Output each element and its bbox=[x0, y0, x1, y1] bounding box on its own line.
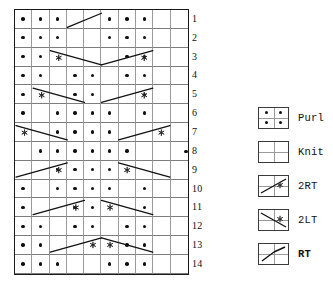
chart-cell bbox=[119, 198, 136, 217]
chart-cell bbox=[136, 180, 153, 199]
purl-dot bbox=[21, 187, 24, 190]
purl-dot bbox=[56, 36, 59, 39]
purl-dot bbox=[21, 17, 24, 20]
purl-dot bbox=[143, 187, 146, 190]
chart-cell bbox=[84, 85, 101, 104]
chart-cell bbox=[15, 85, 32, 104]
chart-cell bbox=[153, 236, 170, 255]
chart-cell bbox=[67, 67, 84, 86]
chart-cell bbox=[171, 161, 188, 180]
chart-cell bbox=[136, 29, 153, 48]
purl-dot bbox=[143, 206, 146, 209]
chart-cell bbox=[15, 123, 32, 142]
chart-cell bbox=[84, 180, 101, 199]
row-number: 13 bbox=[192, 235, 218, 254]
chart-cell bbox=[101, 67, 118, 86]
purl-dot bbox=[143, 17, 146, 20]
purl-dot bbox=[73, 225, 76, 228]
purl-dot bbox=[143, 243, 146, 246]
chart-cell bbox=[50, 67, 67, 86]
row-number: 4 bbox=[192, 66, 218, 85]
chart-cell bbox=[50, 29, 67, 48]
chart-cell bbox=[84, 198, 101, 217]
purl-dot bbox=[56, 168, 59, 171]
chart-cell bbox=[153, 104, 170, 123]
purl-dot bbox=[91, 168, 94, 171]
row-number: 10 bbox=[192, 179, 218, 198]
2lt-glyph-icon bbox=[259, 210, 288, 230]
purl-dot bbox=[125, 243, 128, 246]
purl-dot bbox=[91, 206, 94, 209]
chart-cell bbox=[136, 142, 153, 161]
chart-cell bbox=[50, 198, 67, 217]
legend-swatch-rt-icon bbox=[258, 243, 289, 265]
chart-row bbox=[15, 217, 188, 236]
chart-cell bbox=[32, 198, 49, 217]
chart-cell bbox=[67, 198, 84, 217]
row-number: 3 bbox=[192, 47, 218, 66]
chart-row bbox=[15, 29, 188, 48]
purl-dot bbox=[108, 187, 111, 190]
purl-dot bbox=[39, 17, 42, 20]
chart-cell bbox=[67, 236, 84, 255]
chart-cell bbox=[67, 255, 84, 274]
purl-dot bbox=[73, 93, 76, 96]
purl-dot bbox=[265, 111, 268, 114]
chart-cell bbox=[136, 123, 153, 142]
chart-cell bbox=[32, 85, 49, 104]
legend-swatch-purl-icon bbox=[258, 107, 289, 129]
chart-cell bbox=[32, 161, 49, 180]
chart-cell bbox=[32, 10, 49, 29]
purl-dot bbox=[143, 74, 146, 77]
swatch-horizontal-divider bbox=[259, 152, 288, 153]
chart-cell bbox=[136, 255, 153, 274]
chart-cell bbox=[50, 161, 67, 180]
chart-cell bbox=[153, 217, 170, 236]
chart-cell bbox=[171, 10, 188, 29]
purl-dot bbox=[108, 130, 111, 133]
chart-cell bbox=[67, 161, 84, 180]
chart-cell bbox=[84, 142, 101, 161]
chart-row bbox=[15, 123, 188, 142]
chart-cell bbox=[171, 123, 188, 142]
chart-row bbox=[15, 180, 188, 199]
chart-cell bbox=[171, 48, 188, 67]
legend-label: RT bbox=[298, 248, 311, 260]
chart-row bbox=[15, 142, 188, 161]
chart-cell bbox=[50, 123, 67, 142]
row-number: 7 bbox=[192, 122, 218, 141]
purl-dot bbox=[125, 149, 128, 152]
chart-cell bbox=[136, 85, 153, 104]
purl-dot bbox=[125, 262, 128, 265]
legend-swatch-2lt-icon bbox=[258, 209, 289, 231]
purl-dot bbox=[56, 187, 59, 190]
chart-cell bbox=[84, 161, 101, 180]
chart-cell bbox=[67, 217, 84, 236]
purl-dot bbox=[279, 121, 282, 124]
chart-row bbox=[15, 67, 188, 86]
chart-cell bbox=[15, 161, 32, 180]
chart-cell bbox=[32, 104, 49, 123]
chart-cell bbox=[153, 123, 170, 142]
rt-glyph-icon bbox=[259, 244, 288, 264]
2rt-glyph-icon bbox=[259, 176, 288, 196]
purl-dot bbox=[265, 121, 268, 124]
purl-dot bbox=[91, 93, 94, 96]
chart-cell bbox=[119, 236, 136, 255]
purl-dot bbox=[279, 111, 282, 114]
chart-cell bbox=[50, 142, 67, 161]
chart-row bbox=[15, 236, 188, 255]
purl-dot bbox=[56, 130, 59, 133]
chart-cell bbox=[67, 29, 84, 48]
chart-cell bbox=[153, 85, 170, 104]
purl-dot bbox=[91, 187, 94, 190]
purl-dot bbox=[108, 111, 111, 114]
chart-cell bbox=[101, 236, 118, 255]
purl-dot bbox=[125, 17, 128, 20]
legend-swatch-knit-icon bbox=[258, 141, 289, 163]
chart-cell bbox=[153, 142, 170, 161]
chart-cell bbox=[119, 180, 136, 199]
chart-cell bbox=[101, 123, 118, 142]
row-number: 12 bbox=[192, 216, 218, 235]
purl-dot bbox=[143, 225, 146, 228]
